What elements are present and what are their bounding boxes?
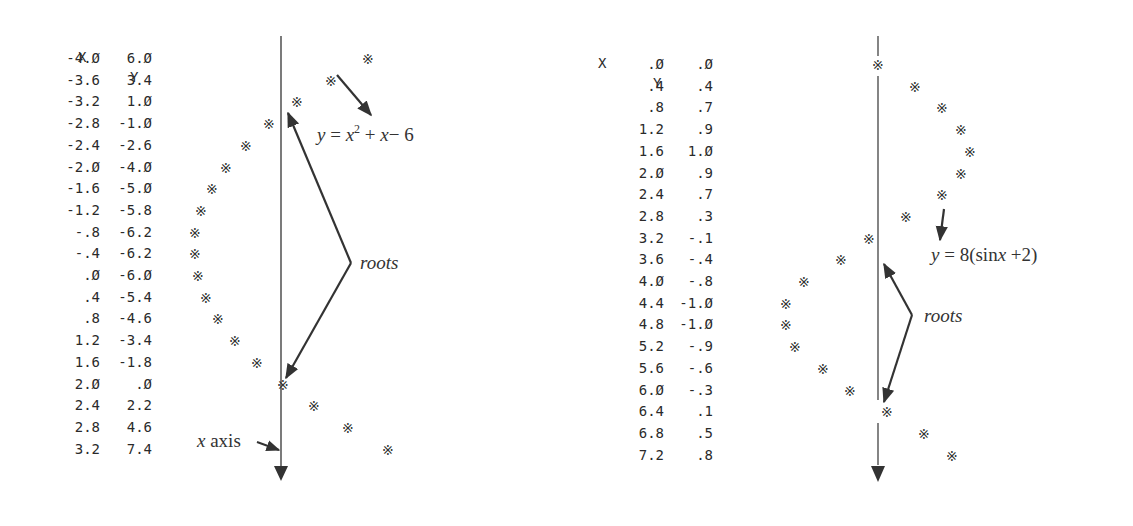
data-point-marker: ※	[362, 51, 374, 67]
data-point-marker: ※	[798, 274, 810, 290]
data-point-marker: ※	[200, 290, 212, 306]
data-point-marker: ※	[206, 181, 218, 197]
right-equation-label: y = 8(sinx +2)	[929, 244, 1037, 266]
data-point-marker: ※	[863, 231, 875, 247]
left-equation-arrow	[337, 75, 371, 115]
right-roots-label: roots	[924, 305, 962, 326]
data-point-marker: ※	[263, 116, 275, 132]
data-point-marker: ※	[789, 339, 801, 355]
data-point-marker: ※	[946, 448, 958, 464]
data-point-marker: ※	[936, 100, 948, 116]
right-roots-arrow-lower	[884, 315, 912, 402]
left-equation-label: y = x2 + x− 6	[315, 122, 414, 145]
data-point-marker: ※	[909, 79, 921, 95]
right-roots-arrow-upper	[884, 264, 912, 315]
data-point-marker: ※	[900, 209, 912, 225]
data-point-marker: ※	[835, 252, 847, 268]
data-point-marker: ※	[291, 94, 303, 110]
data-point-marker: ※	[872, 57, 884, 73]
data-point-marker: ※	[189, 246, 201, 262]
data-point-marker: ※	[936, 187, 948, 203]
data-point-marker: ※	[195, 203, 207, 219]
data-point-marker: ※	[212, 311, 224, 327]
data-point-marker: ※	[308, 398, 320, 414]
left-axis-label: x axis	[196, 430, 241, 451]
data-point-marker: ※	[229, 333, 241, 349]
left-roots-label: roots	[360, 252, 398, 273]
data-point-marker: ※	[251, 355, 263, 371]
right-plot: ※※※※※※※※※※※※※※※※※※※ y = 8(sinx +2) roots	[780, 36, 1037, 482]
data-point-marker: ※	[955, 122, 967, 138]
data-point-marker: ※	[192, 268, 204, 284]
data-point-marker: ※	[918, 426, 930, 442]
left-plot: ※※※※※※※※※※※※※※※※※※※ y = x2 + x− 6 roots …	[189, 36, 414, 481]
right-axis-arrowhead-icon	[871, 466, 885, 482]
data-point-marker: ※	[189, 225, 201, 241]
left-axis-arrowhead-icon	[274, 466, 288, 481]
data-point-marker: ※	[220, 160, 232, 176]
data-point-marker: ※	[844, 383, 856, 399]
plots-canvas: ※※※※※※※※※※※※※※※※※※※ y = x2 + x− 6 roots …	[0, 0, 1133, 526]
right-equation-arrow	[940, 209, 944, 240]
data-point-marker: ※	[780, 317, 792, 333]
data-point-marker: ※	[325, 73, 337, 89]
data-point-marker: ※	[881, 404, 893, 420]
data-point-marker: ※	[780, 296, 792, 312]
left-axis-label-arrow	[257, 442, 279, 450]
data-point-marker: ※	[817, 361, 829, 377]
left-roots-arrow-lower	[286, 263, 351, 378]
data-point-marker: ※	[240, 138, 252, 154]
data-point-marker: ※	[955, 166, 967, 182]
data-point-marker: ※	[964, 144, 976, 160]
data-point-marker: ※	[342, 420, 354, 436]
data-point-marker: ※	[277, 377, 289, 393]
data-point-marker: ※	[382, 442, 394, 458]
